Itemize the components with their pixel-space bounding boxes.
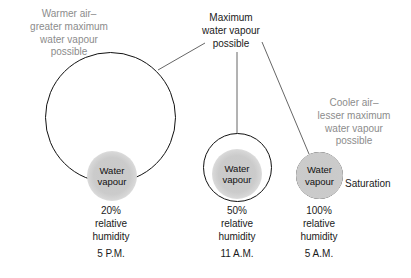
water-vapour-label: Water vapour xyxy=(305,164,334,186)
water-vapour-label: Water vapour xyxy=(97,165,126,187)
time-caption-3: 5 A.M. xyxy=(272,248,366,259)
relative-humidity-diagram: Warmer air– greater maximum water vapour… xyxy=(0,0,411,278)
maximum-capacity-annotation: Maximum water vapour possible xyxy=(178,12,284,50)
relative-humidity-caption-1: 20% relative humidity xyxy=(64,204,158,243)
relative-humidity-caption-2: 50% relative humidity xyxy=(190,204,284,243)
water-vapour-blob-20-percent: Water vapour xyxy=(87,151,137,201)
relative-humidity-caption-3: 100% relative humidity xyxy=(272,204,366,243)
water-vapour-label: Water vapour xyxy=(222,163,251,185)
saturation-label: Saturation xyxy=(345,178,411,191)
water-vapour-blob-100-percent: Water vapour xyxy=(296,152,343,199)
time-caption-1: 5 P.M. xyxy=(64,248,158,259)
cooler-air-annotation: Cooler air– lesser maximum water vapour … xyxy=(300,97,408,148)
time-caption-2: 11 A.M. xyxy=(190,248,284,259)
water-vapour-blob-50-percent: Water vapour xyxy=(212,149,262,199)
clipped-figure-caption xyxy=(8,272,403,278)
